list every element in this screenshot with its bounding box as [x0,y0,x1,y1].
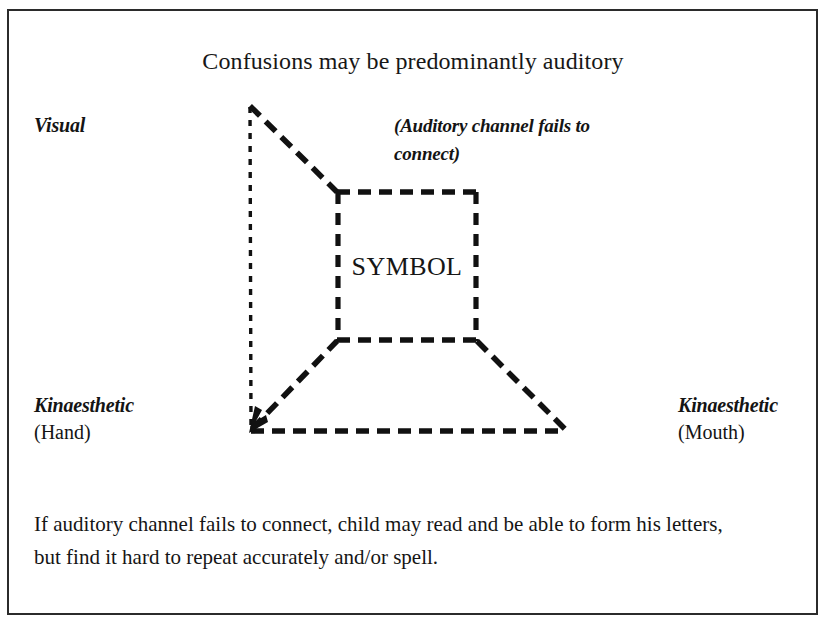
label-kinaesthetic-mouth-term: Kinaesthetic [678,392,778,419]
label-kinaesthetic-hand: Kinaesthetic (Hand) [34,392,134,446]
label-auditory-note: (Auditory channel fails to connect) [394,112,626,167]
figure-caption: If auditory channel fails to connect, ch… [34,508,734,573]
label-visual: Visual [34,112,85,139]
edge-mouth-to-symbol [477,341,565,429]
figure-root: Confusions may be predominantly auditory… [0,0,826,627]
label-visual-term: Visual [34,112,85,139]
label-kinaesthetic-hand-term: Kinaesthetic [34,392,134,419]
label-kinaesthetic-mouth: Kinaesthetic (Mouth) [678,392,778,446]
label-symbol: SYMBOL [337,252,477,282]
edge-visual-vertical [250,107,251,429]
edge-visual-to-symbol [250,106,337,192]
label-kinaesthetic-hand-qualifier: (Hand) [34,419,134,446]
label-kinaesthetic-mouth-qualifier: (Mouth) [678,419,778,446]
